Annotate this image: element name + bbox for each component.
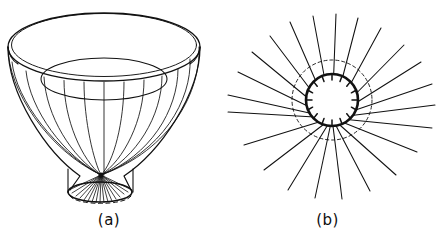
figure-caption-a: (a) [0,211,218,229]
funnel-convergence-point [98,172,103,177]
funnel-rim-ellipse-inner [12,14,197,77]
figure-plate: (a) [0,0,437,246]
funnel-neck-ellipse-upper-arc [68,182,132,192]
figure-caption-b: (b) [218,211,437,229]
figure-panel-b: (b) [218,0,437,246]
funnel-perspective-drawing [0,0,218,246]
funnel-plan-view-drawing [218,0,437,246]
figure-panel-a: (a) [0,0,218,246]
